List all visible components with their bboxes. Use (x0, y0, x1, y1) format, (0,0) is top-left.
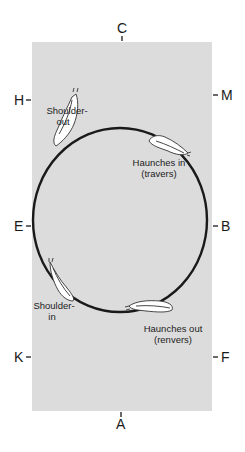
caption-haunches-out-line2: (renvers) (136, 334, 210, 345)
marker-h: H (14, 93, 24, 107)
marker-e: E (14, 219, 23, 233)
arena (32, 42, 212, 411)
marker-k: K (14, 350, 23, 364)
marker-a: A (116, 417, 125, 431)
caption-haunches-in: Haunches in (travers) (124, 157, 194, 179)
marker-m: M (221, 88, 233, 102)
caption-shoulder-in: Shoulder- in (30, 300, 78, 322)
caption-shoulder-out-line1: Shoulder- (40, 105, 94, 116)
caption-shoulder-out-line2: out (40, 116, 94, 127)
dressage-arena-diagram: C A H E K M B F Shoulder- out Haunches i… (0, 0, 245, 452)
marker-f: F (221, 350, 230, 364)
arena-svg (0, 0, 245, 452)
caption-haunches-in-line1: Haunches in (124, 157, 194, 168)
marker-c: C (117, 21, 127, 35)
marker-b: B (221, 219, 230, 233)
caption-haunches-in-line2: (travers) (124, 168, 194, 179)
caption-haunches-out-line1: Haunches out (136, 323, 210, 334)
caption-shoulder-out: Shoulder- out (40, 105, 94, 127)
caption-shoulder-in-line1: Shoulder- (30, 300, 78, 311)
caption-shoulder-in-line2: in (30, 311, 78, 322)
caption-haunches-out: Haunches out (renvers) (136, 323, 210, 345)
